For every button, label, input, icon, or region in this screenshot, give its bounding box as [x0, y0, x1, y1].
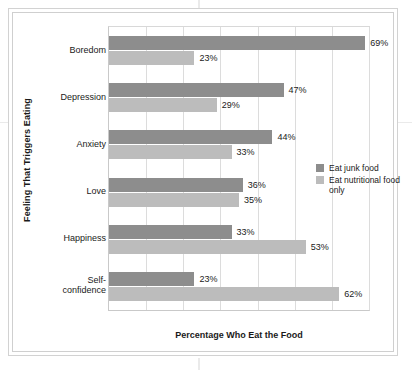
y-axis-tick-label-line: confidence	[34, 285, 106, 295]
legend-item-label: Eat nutritional food only	[329, 175, 400, 195]
bar	[109, 178, 243, 192]
y-axis-tick-label: Self-confidence	[34, 275, 106, 295]
gridline-50	[295, 27, 296, 310]
chart-legend: Eat junk foodEat nutritional food only	[316, 163, 408, 197]
gridline-10	[146, 27, 147, 310]
bar	[109, 272, 194, 286]
y-axis-tick-label-line: Self-	[34, 275, 106, 285]
legend-swatch-icon	[316, 164, 324, 172]
y-axis-tick-labels: BoredomDepressionAnxietyLoveHappinessSel…	[34, 26, 106, 311]
bar	[109, 225, 232, 239]
bar-value-label: 33%	[237, 145, 255, 159]
bar	[109, 130, 272, 144]
bar-value-label: 62%	[344, 287, 362, 301]
legend-swatch-icon	[316, 176, 324, 184]
x-axis-title: Percentage Who Eat the Food	[108, 330, 370, 340]
bar-value-label: 23%	[199, 272, 217, 286]
bar-value-label: 53%	[311, 240, 329, 254]
y-axis-tick-label: Boredom	[34, 45, 106, 55]
legend-item: Eat junk food	[316, 163, 408, 173]
bar-value-label: 36%	[248, 178, 266, 192]
bar	[109, 83, 284, 97]
bar-value-label: 47%	[289, 83, 307, 97]
y-axis-tick-label: Happiness	[34, 233, 106, 243]
bar	[109, 240, 306, 254]
bar-value-label: 69%	[370, 36, 388, 50]
bar	[109, 287, 339, 301]
legend-item: Eat nutritional food only	[316, 175, 408, 195]
y-axis-tick-label: Depression	[34, 92, 106, 102]
gridline-30	[220, 27, 221, 310]
bar	[109, 193, 239, 207]
bar	[109, 51, 194, 65]
bar-value-label: 33%	[237, 225, 255, 239]
gridline-20	[183, 27, 184, 310]
bar-value-label: 35%	[244, 193, 262, 207]
bar	[109, 36, 365, 50]
y-axis-title: Feeling That Triggers Eating	[22, 60, 32, 260]
bar	[109, 98, 217, 112]
bar	[109, 145, 232, 159]
legend-item-label: Eat junk food	[329, 163, 379, 173]
y-axis-tick-label: Love	[34, 186, 106, 196]
gridline-40	[258, 27, 259, 310]
bar-value-label: 29%	[222, 98, 240, 112]
bar-value-label: 23%	[199, 51, 217, 65]
y-axis-tick-label: Anxiety	[34, 139, 106, 149]
bar-value-label: 44%	[277, 130, 295, 144]
bar-chart: Feeling That Triggers Eating BoredomDepr…	[0, 0, 412, 370]
